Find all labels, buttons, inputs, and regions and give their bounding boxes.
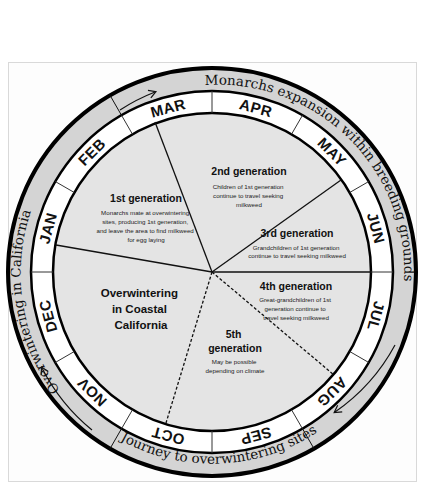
svg-text:1st generation: 1st generation bbox=[110, 192, 182, 204]
monarch-lifecycle-diagram: JANFEBMARAPRMAYJUNJULAUGSEPOCTNOVDEC Mon… bbox=[0, 0, 433, 493]
segment-gen4: 4th generation Great-grandchildren of 1s… bbox=[259, 280, 333, 321]
svg-text:Grandchildren of 1st generatio: Grandchildren of 1st generation continue… bbox=[248, 244, 346, 259]
svg-text:4th generation: 4th generation bbox=[260, 280, 332, 292]
svg-text:3rd generation: 3rd generation bbox=[261, 227, 334, 239]
svg-text:2nd generation: 2nd generation bbox=[211, 165, 286, 177]
svg-text:Great-grandchildren of 1st: Great-grandchildren of 1st generation co… bbox=[259, 296, 333, 321]
